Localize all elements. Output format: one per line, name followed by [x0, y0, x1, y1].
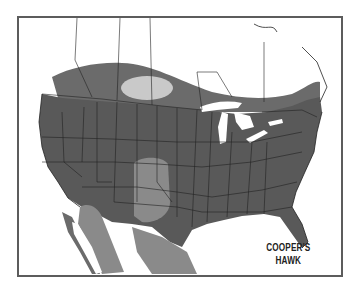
pale-range-patch	[121, 76, 173, 100]
range-map	[19, 18, 341, 275]
map-frame: COOPER'S HAWK	[17, 16, 343, 277]
species-label-line1: COOPER'S	[267, 241, 311, 254]
species-label-line2: HAWK	[267, 254, 311, 267]
winter-range-plains	[134, 158, 170, 222]
species-label: COOPER'S HAWK	[267, 241, 311, 267]
